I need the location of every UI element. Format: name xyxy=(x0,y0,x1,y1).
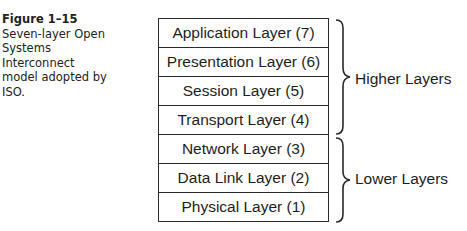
osi-layer-stack: Application Layer (7) Presentation Layer… xyxy=(158,18,329,222)
layer-physical: Physical Layer (1) xyxy=(159,193,328,221)
layer-data-link: Data Link Layer (2) xyxy=(159,164,328,193)
layer-session: Session Layer (5) xyxy=(159,77,328,106)
layer-network: Network Layer (3) xyxy=(159,135,328,164)
lower-layers-label: Lower Layers xyxy=(355,170,448,188)
higher-layers-label: Higher Layers xyxy=(355,70,452,88)
higher-layers-brace-icon xyxy=(334,18,354,136)
figure-caption: Figure 1–15 Seven-layer Open Systems Int… xyxy=(2,12,112,99)
layer-transport: Transport Layer (4) xyxy=(159,106,328,135)
layer-application: Application Layer (7) xyxy=(159,19,328,48)
figure-caption-text: Seven-layer Open Systems Interconnect mo… xyxy=(2,27,107,99)
lower-layers-brace-icon xyxy=(334,136,354,224)
figure-label: Figure 1–15 xyxy=(2,12,112,27)
layer-presentation: Presentation Layer (6) xyxy=(159,48,328,77)
